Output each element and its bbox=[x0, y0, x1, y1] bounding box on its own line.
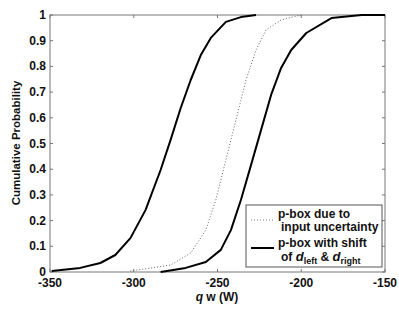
x-tick-label: -300 bbox=[122, 276, 146, 290]
y-tick-label: 0.9 bbox=[29, 34, 46, 48]
y-tick-label: 0.8 bbox=[29, 59, 46, 73]
x-tick-label: -150 bbox=[373, 276, 397, 290]
legend-label-1b: input uncertainty bbox=[281, 220, 379, 234]
legend-label-2a: p-box with shift bbox=[278, 236, 367, 250]
y-tick-label: 0.7 bbox=[29, 85, 46, 99]
legend: p-box due to input uncertainty p-box wit… bbox=[246, 205, 382, 267]
y-tick-label: 0.1 bbox=[29, 239, 46, 253]
y-tick-label: 0.5 bbox=[29, 137, 46, 151]
x-tick-label: -200 bbox=[289, 276, 313, 290]
series-line-1 bbox=[52, 15, 256, 271]
y-tick-label: 0.2 bbox=[29, 214, 46, 228]
y-tick-label: 0.4 bbox=[29, 162, 46, 176]
legend-label-1a: p-box due to bbox=[278, 207, 350, 221]
x-tick-label: -250 bbox=[205, 276, 229, 290]
x-axis-label: q w (W) bbox=[196, 290, 239, 304]
y-tick-label: 1 bbox=[39, 8, 46, 22]
y-tick-label: 0.3 bbox=[29, 188, 46, 202]
chart: 00.10.20.30.40.50.60.70.80.91 -350-300-2… bbox=[0, 0, 399, 309]
x-tick-label: -350 bbox=[38, 276, 62, 290]
y-axis-label: Cumulative Probability bbox=[10, 80, 22, 205]
y-tick-label: 0.6 bbox=[29, 111, 46, 125]
